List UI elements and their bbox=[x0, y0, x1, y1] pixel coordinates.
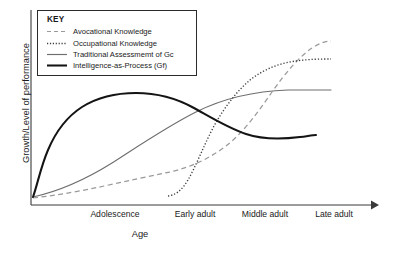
legend-item-occupational: Occupational Knowledge bbox=[38, 37, 196, 48]
x-tick-label-late-adult: Late adult bbox=[315, 209, 353, 219]
solid-thick-line-icon bbox=[46, 60, 68, 71]
dashed-line-icon bbox=[46, 26, 68, 37]
y-axis-title: Growth/Level of performance bbox=[21, 13, 31, 193]
x-axis-arrow-icon bbox=[371, 201, 379, 210]
legend-title: KEY bbox=[47, 15, 196, 24]
series-line-occupational bbox=[168, 59, 331, 196]
legend-label-gf: Intelligence-as-Process (Gf) bbox=[73, 61, 167, 70]
legend-label-avocational: Avocational Knowledge bbox=[73, 27, 152, 36]
solid-thin-line-icon bbox=[46, 49, 68, 60]
x-tick-label-middle-adult: Middle adult bbox=[242, 209, 288, 219]
chart-figure: KEY Avocational Knowledge Occupational K… bbox=[0, 0, 398, 260]
series-line-gc bbox=[33, 90, 331, 197]
chart-legend: KEY Avocational Knowledge Occupational K… bbox=[37, 10, 197, 76]
x-axis-title: Age bbox=[0, 229, 280, 239]
legend-item-gc: Traditional Assessmemt of Gc bbox=[38, 49, 196, 60]
legend-label-occupational: Occupational Knowledge bbox=[73, 39, 157, 48]
x-tick-label-adolescence: Adolescence bbox=[90, 209, 139, 219]
dotted-line-icon bbox=[46, 38, 68, 49]
legend-item-avocational: Avocational Knowledge bbox=[38, 26, 196, 37]
series-line-gf bbox=[33, 93, 316, 197]
legend-label-gc: Traditional Assessmemt of Gc bbox=[73, 50, 174, 59]
x-tick-label-early-adult: Early adult bbox=[175, 209, 216, 219]
legend-item-gf: Intelligence-as-Process (Gf) bbox=[38, 60, 196, 71]
